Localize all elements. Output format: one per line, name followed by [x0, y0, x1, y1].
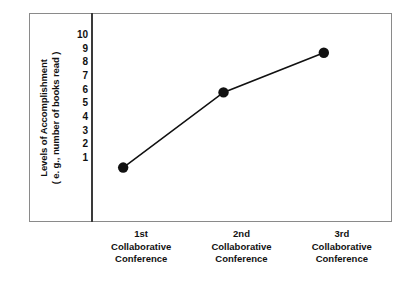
x-tick-label: 3rdCollaborativeConference	[292, 228, 392, 278]
y-tick-label: 1	[66, 153, 88, 163]
x-tick-label-line: 1st	[91, 228, 191, 241]
y-tick-label: 6	[66, 85, 88, 95]
x-tick-label: 2ndCollaborativeConference	[191, 228, 291, 278]
y-tick-label: 2	[66, 139, 88, 149]
x-tick-label-line: 3rd	[292, 228, 392, 241]
y-tick-label: 5	[66, 98, 88, 108]
x-tick-label-line: Conference	[292, 253, 392, 266]
x-axis-category-labels: 1stCollaborativeConference2ndCollaborati…	[91, 228, 392, 278]
x-tick-label: 1stCollaborativeConference	[91, 228, 191, 278]
y-axis-title-line-2: ( e. g., number of books read )	[50, 51, 61, 184]
y-tick-label: 7	[66, 71, 88, 81]
x-tick-label-line: Conference	[91, 253, 191, 266]
x-tick-label-line: Collaborative	[91, 241, 191, 254]
x-tick-label-line: Conference	[191, 253, 291, 266]
y-tick-label: 8	[66, 57, 88, 67]
y-tick-label: 3	[66, 126, 88, 136]
y-tick-label: 4	[66, 112, 88, 122]
x-tick-label-line: Collaborative	[191, 241, 291, 254]
y-axis-title-line-1: Levels of Accomplishment	[38, 59, 49, 177]
y-tick-label: 10	[66, 30, 88, 40]
x-tick-label-line: 2nd	[191, 228, 291, 241]
y-tick-label: 9	[66, 44, 88, 54]
y-axis-tick-labels: 10987654321	[64, 13, 88, 222]
x-tick-label-line: Collaborative	[292, 241, 392, 254]
chart-container: Levels of Accomplishment ( e. g., number…	[0, 0, 416, 286]
y-axis-line	[91, 13, 93, 222]
